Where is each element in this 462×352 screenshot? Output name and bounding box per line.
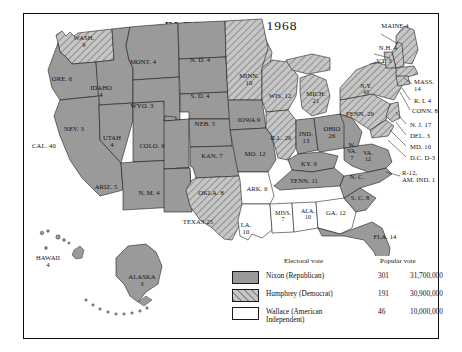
state-montana <box>126 23 179 80</box>
label-south-carolina: S. C. 8 <box>351 194 370 201</box>
label-indiana: IND. 13 <box>299 130 313 144</box>
label-ohio: OHIO 26 <box>324 125 341 139</box>
legend-electoral-nixon: 301 <box>378 271 389 280</box>
legend-popular-wallace: 10,000,000 <box>410 307 443 316</box>
label-vermont: VT. 3 <box>376 57 391 64</box>
label-nebraska: NEB. 5 <box>195 120 215 127</box>
label-south-dakota: S. D. 4 <box>190 92 209 99</box>
legend-header-electoral: Electoral vote <box>284 257 323 265</box>
label-idaho: IDAHO 4 <box>90 84 112 98</box>
label-west-virginia: W. VA. 7 <box>347 142 357 161</box>
legend-swatch-humphrey <box>232 289 259 302</box>
label-arizona: ARIZ. 5 <box>95 183 118 190</box>
label-north-dakota: N. D. 4 <box>190 56 210 63</box>
label-massachusetts: MASS. 14 <box>414 78 434 92</box>
label-delaware: DEL. 3 <box>410 132 430 139</box>
label-wyoming: WYO. 3 <box>131 102 154 109</box>
legend-popular-humphrey: 30,900,000 <box>410 289 443 298</box>
label-mississippi: MISS. 7 <box>275 210 291 223</box>
label-california: CAL. 40 <box>32 142 56 149</box>
label-michigan: MICH. 21 <box>306 90 325 104</box>
label-florida: FLA. 14 <box>373 233 396 240</box>
label-oregon: ORE. 6 <box>52 75 72 82</box>
label-kansas: KAN. 7 <box>201 152 222 159</box>
label-district-of-columbia: D.C. D-3 <box>410 154 435 161</box>
label-arkansas: ARK. 6 <box>246 185 267 192</box>
label-minnesota: MINN. 10 <box>239 72 259 86</box>
legend-electoral-wallace: 46 <box>378 307 385 316</box>
label-hawaii: HAWAII 4 <box>36 254 60 268</box>
label-nevada: NEV. 3 <box>64 125 84 132</box>
legend-column-headers: Electoral vote Popular vote <box>284 256 432 269</box>
label-missouri: MO. 12 <box>244 150 265 157</box>
label-maine: MAINE 4 <box>381 22 408 29</box>
label-tennessee: TENN. 11 <box>290 177 318 184</box>
legend-label-wallace-line2: Independent) <box>266 315 305 324</box>
state-colorado-body <box>164 119 189 169</box>
label-new-hampshire: N.H. 4 <box>379 44 397 51</box>
legend-swatch-nixon <box>232 271 259 284</box>
label-montana: MONT. 4 <box>130 58 156 65</box>
label-new-york: N.Y. 43 <box>360 83 371 96</box>
state-south-dakota <box>179 57 228 94</box>
label-maryland: MD. 10 <box>410 143 431 150</box>
legend-label-humphrey: Humphrey (Democrat) <box>266 289 333 298</box>
election-map-figure: ELECTION OF 1968 <box>0 0 462 352</box>
legend-swatch-wallace <box>232 307 259 320</box>
legend-row-wallace: Wallace (American Independent) 46 10,000… <box>232 306 432 323</box>
label-louisiana: LA. 10 <box>241 221 252 235</box>
label-connecticut: CONN. 8 <box>412 107 438 114</box>
map-legend: Electoral vote Popular vote Nixon (Repub… <box>232 256 432 328</box>
label-washington: WASH. 9 <box>74 34 95 48</box>
label-iowa: IOWA 9 <box>238 116 260 123</box>
label-pennsylvania: PENN. 29 <box>346 110 374 117</box>
legend-row-humphrey: Humphrey (Democrat) 191 30,900,000 <box>232 288 432 305</box>
legend-label-nixon: Nixon (Republican) <box>266 271 324 280</box>
legend-header-popular: Popular vote <box>380 257 416 265</box>
label-new-jersey: N. J. 17 <box>410 121 431 128</box>
label-new-mexico: N. M. 4 <box>138 189 159 196</box>
legend-popular-nixon: 31,700,000 <box>410 271 443 280</box>
label-texas: TEXAS 25 <box>183 218 213 225</box>
label-alabama: ALA. 10 <box>301 208 315 221</box>
label-oklahoma: OKLA. 8 <box>198 189 224 196</box>
label-virginia: VA. 12 <box>363 150 373 163</box>
label-colorado: COLO. 6 <box>139 142 164 149</box>
label-north-carolina-split: R-12, AM. IND. 1 <box>402 169 435 183</box>
legend-row-nixon: Nixon (Republican) 301 31,700,000 <box>232 270 432 287</box>
label-georgia: GA. 12 <box>326 209 346 216</box>
label-utah: UTAH 4 <box>103 134 121 148</box>
label-kentucky: KY. 9 <box>301 160 317 167</box>
label-wisconsin: WIS. 12 <box>269 92 292 99</box>
state-north-dakota <box>178 21 226 59</box>
state-minnesota-body <box>225 19 268 100</box>
label-rhode-island: R. I. 4 <box>414 97 431 104</box>
label-north-carolina: N. C. <box>350 173 365 180</box>
label-illinois: ILL. 26 <box>271 134 292 141</box>
legend-electoral-humphrey: 191 <box>378 289 389 298</box>
label-alaska: ALASKA 3 <box>128 273 155 287</box>
